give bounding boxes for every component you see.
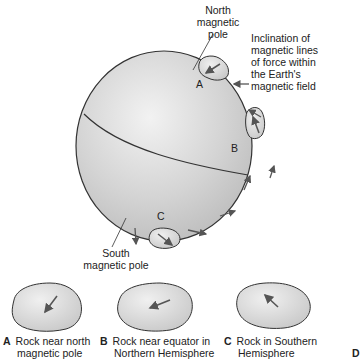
point-c-label: C xyxy=(157,210,165,222)
inclination-label: Inclination of magnetic lines of force w… xyxy=(251,32,361,92)
caption-a: ARock near north magnetic pole xyxy=(3,335,90,359)
caption-text: Rock in Southern xyxy=(237,335,318,347)
north-pole-label: North magnetic pole xyxy=(196,4,240,40)
caption-c: CRock in Southern Hemisphere xyxy=(224,335,317,359)
label-line: magnetic xyxy=(196,16,240,28)
caption-d-letter: D xyxy=(352,347,360,359)
rock-b-large xyxy=(118,283,193,331)
label-line: Inclination of xyxy=(251,32,361,44)
rock-b-small xyxy=(246,108,265,139)
label-line: North xyxy=(196,4,240,16)
label-line: pole xyxy=(196,28,240,40)
label-line: magnetic lines xyxy=(251,44,361,56)
caption-letter: A xyxy=(3,335,11,347)
label-line: South xyxy=(78,247,154,259)
label-line: the Earth's xyxy=(251,68,361,80)
caption-letter: C xyxy=(224,335,232,347)
caption-letter: B xyxy=(100,335,108,347)
point-a-label: A xyxy=(196,78,203,90)
label-line: magnetic pole xyxy=(78,259,154,271)
rock-c-small xyxy=(149,228,180,248)
caption-text: Hemisphere xyxy=(224,347,317,359)
caption-text: magnetic pole xyxy=(3,347,90,359)
caption-text: Rock near north xyxy=(16,335,91,347)
rock-c-large xyxy=(237,283,311,329)
caption-b: BRock near equator in Northern Hemispher… xyxy=(100,335,214,359)
label-line: of force within xyxy=(251,56,361,68)
label-line: magnetic field xyxy=(251,80,361,92)
point-b-label: B xyxy=(231,142,238,154)
caption-text: Rock near equator in xyxy=(113,335,210,347)
rock-a-large xyxy=(12,283,81,331)
caption-text: Northern Hemisphere xyxy=(100,347,214,359)
south-pole-label: South magnetic pole xyxy=(78,247,154,271)
